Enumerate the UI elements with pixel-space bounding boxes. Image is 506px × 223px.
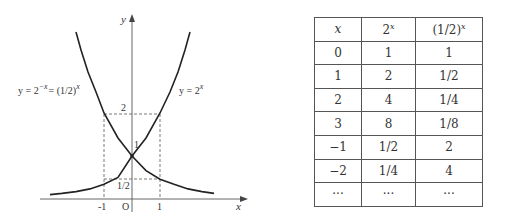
table-row: −1 1/2 2 <box>315 135 483 159</box>
y-tick-half: 1/2 <box>117 180 130 191</box>
curve-right-label: y = 2x <box>179 82 204 96</box>
table-row: −2 1/4 4 <box>315 159 483 183</box>
curve-left-label: y = 2−x= (1/2)x <box>18 82 80 97</box>
x-tick-1: 1 <box>157 201 162 212</box>
y-tick-1: 1 <box>134 139 139 150</box>
y-axis-arrow-icon <box>129 14 135 22</box>
x-axis-label: x <box>235 200 241 212</box>
values-table: x 2x (1/2)x 0 1 1 1 2 1/2 2 4 1/4 3 8 1/… <box>314 17 483 207</box>
header-x: x <box>315 18 362 42</box>
intersection-point <box>130 154 134 158</box>
x-axis-arrow-icon <box>240 196 248 202</box>
exponential-graph: y x O -1 1 2 1 1/2 y = 2−x= (1/2)x y = 2… <box>0 0 260 223</box>
table-row: 3 8 1/8 <box>315 112 483 136</box>
table-row: 1 2 1/2 <box>315 65 483 89</box>
header-2-pow-x: 2x <box>362 18 416 42</box>
table-row: ··· ··· ··· <box>315 183 483 207</box>
header-half-pow-x: (1/2)x <box>416 18 483 42</box>
curve-2-pow-neg-x <box>76 32 214 193</box>
table-header-row: x 2x (1/2)x <box>315 18 483 42</box>
table-row: 0 1 1 <box>315 41 483 65</box>
y-tick-2: 2 <box>121 102 126 113</box>
y-axis-label: y <box>120 13 126 25</box>
curve-2-pow-x <box>50 32 190 195</box>
origin-label: O <box>122 201 129 212</box>
table-row: 2 4 1/4 <box>315 88 483 112</box>
x-tick-neg-1: -1 <box>98 201 106 212</box>
